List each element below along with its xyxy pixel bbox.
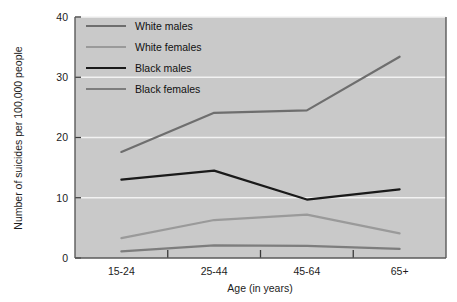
x-tick-label: 25-44	[201, 265, 228, 277]
y-axis-title: Number of suicides per 100,000 people	[12, 46, 24, 229]
y-tick-label: 40	[56, 11, 68, 23]
y-tick-label: 0	[62, 252, 68, 264]
legend-label-2: Black males	[135, 62, 192, 74]
legend-label-0: White males	[135, 20, 193, 32]
y-tick-label: 20	[56, 131, 68, 143]
legend-label-3: Black females	[135, 83, 200, 95]
y-tick-label: 10	[56, 192, 68, 204]
x-axis-title: Age (in years)	[227, 282, 292, 294]
chart-container: 010203040 15-2425-4445-6465+ White males…	[0, 0, 457, 302]
x-tick-label: 65+	[391, 265, 409, 277]
x-tick-label: 45-64	[293, 265, 320, 277]
y-tick-label: 30	[56, 71, 68, 83]
line-chart: 010203040 15-2425-4445-6465+ White males…	[0, 0, 457, 302]
legend-label-1: White females	[135, 41, 202, 53]
x-tick-label: 15-24	[108, 265, 135, 277]
